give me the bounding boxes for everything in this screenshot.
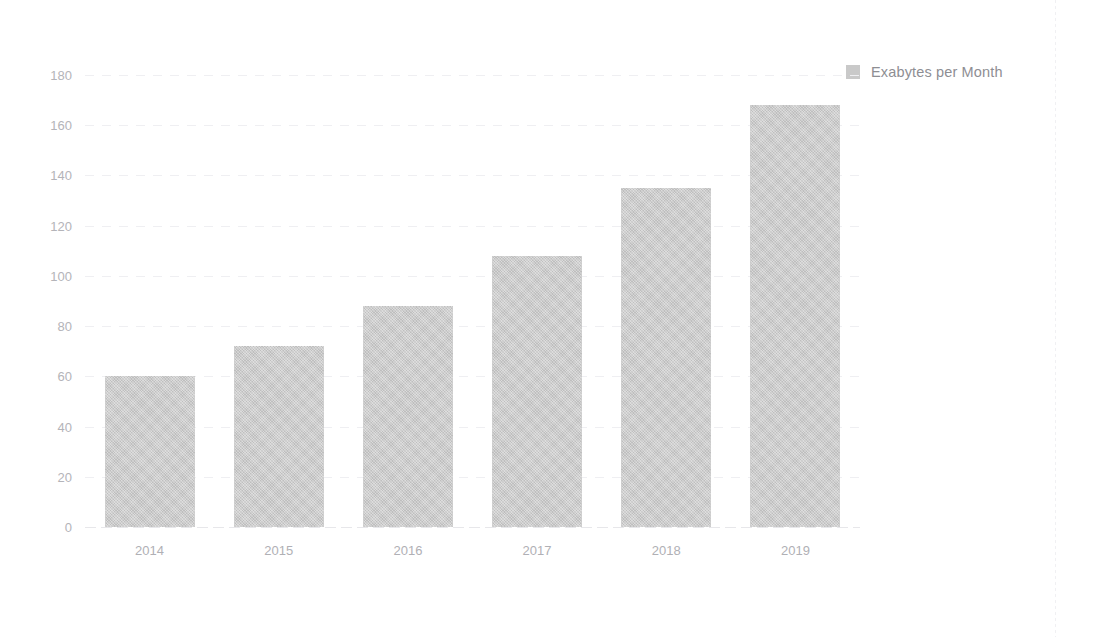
- x-axis-tick-label-2014: 2014: [135, 543, 164, 558]
- bar-group: 2019: [731, 75, 860, 527]
- bar-chart: Exabytes per Month 020406080100120140160…: [0, 0, 1102, 637]
- bar-2017[interactable]: [492, 256, 582, 527]
- bar-group: 2014: [85, 75, 214, 527]
- bar-group: 2016: [343, 75, 472, 527]
- bar-2018[interactable]: [621, 188, 711, 527]
- y-axis-tick-label: 140: [50, 168, 72, 183]
- x-axis-tick-label-2018: 2018: [652, 543, 681, 558]
- chart-legend: Exabytes per Month: [846, 64, 1003, 80]
- legend-label-exabytes-per-month: Exabytes per Month: [871, 64, 1003, 80]
- bar-group: 2015: [214, 75, 343, 527]
- bar-2015[interactable]: [234, 346, 324, 527]
- y-axis-tick-label: 40: [58, 419, 72, 434]
- x-axis-tick-label-2017: 2017: [523, 543, 552, 558]
- y-axis-tick-label: 180: [50, 68, 72, 83]
- y-axis-tick-label: 60: [58, 369, 72, 384]
- bar-series-exabytes-per-month: 201420152016201720182019: [85, 75, 860, 527]
- y-axis-tick-label: 100: [50, 268, 72, 283]
- y-axis-tick-label: 160: [50, 118, 72, 133]
- y-axis-tick-label: 20: [58, 469, 72, 484]
- x-axis-tick-label-2016: 2016: [393, 543, 422, 558]
- y-axis-tick-label: 80: [58, 319, 72, 334]
- bar-2014[interactable]: [105, 376, 195, 527]
- bar-2019[interactable]: [750, 105, 840, 527]
- plot-area: 020406080100120140160180 201420152016201…: [85, 75, 860, 527]
- bar-2016[interactable]: [363, 306, 453, 527]
- y-axis-tick-label: 0: [65, 520, 72, 535]
- x-axis-tick-label-2015: 2015: [264, 543, 293, 558]
- bar-group: 2017: [473, 75, 602, 527]
- x-axis-tick-label-2019: 2019: [781, 543, 810, 558]
- y-axis-tick-label: 120: [50, 218, 72, 233]
- bar-group: 2018: [602, 75, 731, 527]
- gridline: [85, 527, 860, 528]
